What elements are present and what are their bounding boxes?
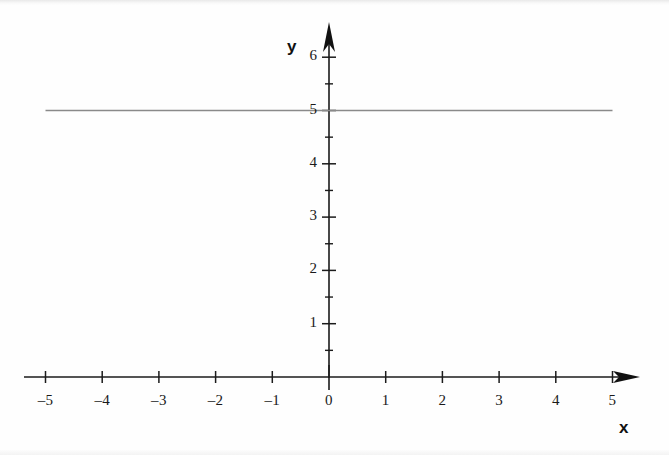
x-tick-label: –2 [205, 392, 227, 409]
y-tick-label: 6 [297, 47, 317, 64]
y-tick-label: 2 [297, 260, 317, 277]
y-tick-label: 5 [297, 101, 317, 118]
graph-figure: –5–4–3–2–1012345 123456 x y [0, 0, 669, 455]
x-tick-label: –4 [91, 392, 113, 409]
y-tick-label: 3 [297, 207, 317, 224]
x-tick-label: 4 [545, 392, 567, 409]
x-axis-title: x [619, 418, 628, 438]
plot-area [0, 0, 669, 455]
x-tick-label: –3 [148, 392, 170, 409]
x-tick-label: –1 [261, 392, 283, 409]
y-axis-title: y [287, 37, 296, 57]
x-tick-label: 2 [431, 392, 453, 409]
x-tick-label: 5 [602, 392, 624, 409]
x-tick-label: 3 [488, 392, 510, 409]
y-tick-label: 4 [297, 154, 317, 171]
x-tick-label: 0 [318, 392, 340, 409]
y-tick-label: 1 [297, 314, 317, 331]
x-tick-label: –5 [35, 392, 57, 409]
x-tick-label: 1 [375, 392, 397, 409]
